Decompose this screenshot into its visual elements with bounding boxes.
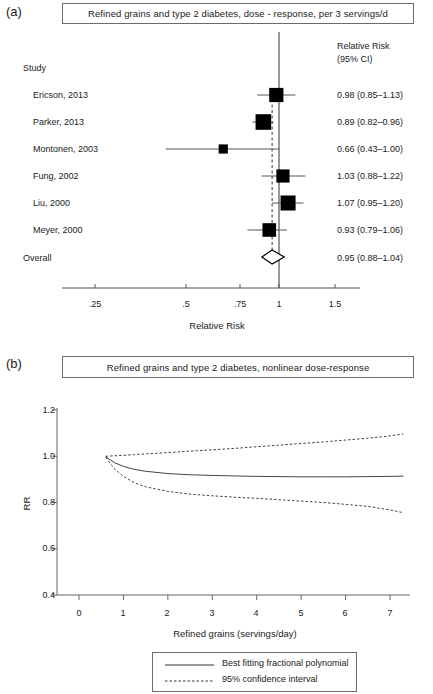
nonlinear-ytick-0p6: 0.6 (28, 543, 55, 553)
nonlinear-plot-graphic (0, 350, 433, 694)
forest-xtick-3: 1 (276, 299, 281, 309)
nonlinear-xtick-6: 6 (342, 608, 347, 618)
nonlinear-xtick-0: 0 (76, 608, 81, 618)
nonlinear-xtick-2: 2 (164, 608, 169, 618)
forest-xtick-1: .5 (182, 299, 190, 309)
nonlinear-y-axis-title: RR (21, 491, 32, 517)
nonlinear-ytick-1p0: 1.0 (28, 451, 55, 461)
forest-plot-panel: (a) Refined grains and type 2 diabetes, … (0, 0, 433, 350)
legend-label-solid: Best fitting fractional polynomial (222, 658, 349, 668)
nonlinear-ytick-0p4: 0.4 (28, 590, 55, 600)
nonlinear-ytick-0p8: 0.8 (28, 497, 55, 507)
forest-xtick-2: .75 (234, 299, 247, 309)
nonlinear-xtick-3: 3 (209, 608, 214, 618)
nonlinear-plot-panel: (b) Refined grains and type 2 diabetes, … (0, 350, 433, 694)
nonlinear-xtick-4: 4 (253, 608, 258, 618)
forest-xtick-0: .25 (89, 299, 102, 309)
forest-xtick-4: 1.5 (329, 299, 342, 309)
nonlinear-xtick-7: 7 (387, 608, 392, 618)
legend-label-dashed: 95% confidence interval (222, 674, 318, 684)
forest-x-axis-title: Relative Risk (189, 320, 244, 331)
nonlinear-xtick-5: 5 (298, 608, 303, 618)
nonlinear-ytick-1p2: 1.2 (28, 405, 55, 415)
nonlinear-xtick-1: 1 (120, 608, 125, 618)
forest-plot-graphic (0, 0, 433, 350)
nonlinear-x-axis-title: Refined grains (servings/day) (173, 628, 297, 639)
